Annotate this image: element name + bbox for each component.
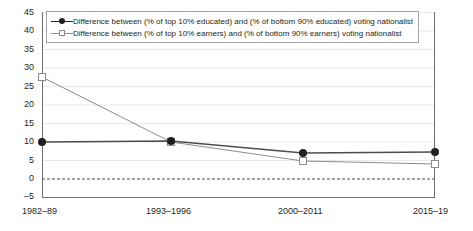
x-axis: 1982–89 1993–1996 2000–2011 2015–19 — [0, 0, 473, 231]
chart-container: 45 40 35 30 25 20 15 10 5 0 –5 — [0, 0, 473, 231]
x-tick-label-2: 1993–1996 — [146, 207, 191, 216]
x-tick-label-3: 2000–2011 — [278, 207, 322, 216]
x-tick-label-4: 2015–19 — [413, 207, 448, 216]
x-tick-label-1: 1982–89 — [22, 207, 57, 216]
